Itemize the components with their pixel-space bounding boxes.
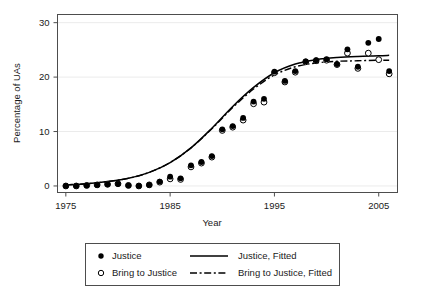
legend-filled-circle-icon xyxy=(98,253,103,258)
data-point-justice xyxy=(251,99,257,105)
data-point-justice xyxy=(167,174,173,180)
y-tick-label: 20 xyxy=(39,71,50,82)
data-point-justice xyxy=(386,68,392,74)
x-tick-label: 1975 xyxy=(55,200,76,211)
data-point-justice xyxy=(261,96,267,102)
data-point-justice xyxy=(334,61,340,67)
y-tick-label: 0 xyxy=(44,180,49,191)
data-point-justice xyxy=(63,183,69,189)
data-point-justice xyxy=(230,123,236,129)
data-point-justice xyxy=(136,183,142,189)
y-tick-label: 10 xyxy=(39,126,50,137)
data-point-justice xyxy=(73,183,79,189)
data-point-justice xyxy=(272,69,278,75)
y-tick-label: 30 xyxy=(39,17,50,28)
data-point-justice xyxy=(324,56,330,62)
x-tick-label: 2005 xyxy=(368,200,389,211)
data-point-justice xyxy=(178,175,184,181)
data-point-justice xyxy=(345,46,351,52)
data-point-justice xyxy=(146,182,152,188)
data-point-bring-to-justice xyxy=(365,50,371,56)
data-point-justice xyxy=(188,162,194,168)
data-point-justice xyxy=(303,58,309,64)
data-point-justice xyxy=(84,183,90,189)
data-point-justice xyxy=(94,182,100,188)
data-point-justice xyxy=(105,181,111,187)
legend-label-bring-to-justice-fitted: Bring to Justice, Fitted xyxy=(238,267,332,278)
x-axis-title: Year xyxy=(202,217,221,228)
scatter-line-chart: 0102030 1975198519952005 Year Percentage… xyxy=(0,0,424,294)
chart-figure: 0102030 1975198519952005 Year Percentage… xyxy=(0,0,424,294)
data-point-justice xyxy=(126,183,132,189)
legend-label-justice-fitted: Justice, Fitted xyxy=(238,250,297,261)
x-tick-label: 1995 xyxy=(264,200,285,211)
data-point-justice xyxy=(313,57,319,63)
data-point-justice xyxy=(292,68,298,74)
legend-label-bring-to-justice: Bring to Justice xyxy=(112,267,177,278)
data-point-justice xyxy=(199,159,205,165)
data-point-justice xyxy=(376,36,382,42)
x-tick-label: 1985 xyxy=(160,200,181,211)
data-point-justice xyxy=(219,126,225,132)
chart-legend: Justice Bring to Justice Justice, Fitted… xyxy=(86,244,340,286)
legend-open-circle-icon xyxy=(98,270,103,275)
data-point-justice xyxy=(240,115,246,121)
data-point-bring-to-justice xyxy=(376,57,382,63)
data-point-justice xyxy=(115,181,121,187)
data-point-justice xyxy=(365,40,371,46)
y-axis-title: Percentage of UAs xyxy=(11,63,22,143)
data-point-justice xyxy=(209,153,215,159)
legend-label-justice: Justice xyxy=(112,250,142,261)
data-point-justice xyxy=(157,179,163,185)
data-point-justice xyxy=(282,78,288,84)
data-point-justice xyxy=(355,64,361,70)
